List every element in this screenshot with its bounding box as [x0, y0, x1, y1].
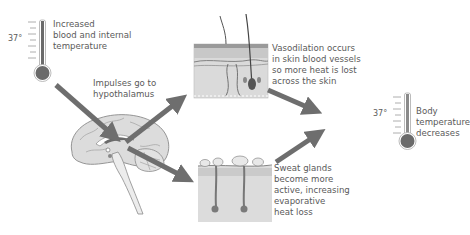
label-temperature-decreases: Body temperature decreases — [416, 106, 470, 139]
thermometer-high-icon — [28, 20, 51, 82]
skin-sweat-glands-icon — [198, 156, 272, 222]
thermometer-normal-icon — [393, 93, 416, 150]
left-thermometer-mark: 37° — [8, 34, 22, 43]
label-impulses-hypothalamus: Impulses go to hypothalamus — [93, 78, 156, 100]
label-sweat-glands: Sweat glands become more active, increas… — [274, 163, 350, 218]
label-vasodilation: Vasodilation occurs in skin blood vessel… — [272, 43, 361, 87]
arrow-sweat-to-decrease — [276, 134, 318, 162]
skin-blood-vessels-icon — [194, 14, 268, 98]
arrow-vasodilation-to-decrease — [268, 90, 314, 110]
label-increased-temperature: Increased blood and internal temperature — [53, 19, 131, 52]
right-thermometer-mark: 37° — [373, 109, 387, 118]
